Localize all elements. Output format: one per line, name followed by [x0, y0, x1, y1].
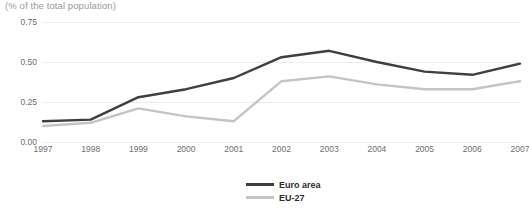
x-tick-label: 2001 [224, 144, 243, 154]
x-tick-label: 2007 [511, 144, 529, 154]
legend-swatch-icon [246, 183, 274, 186]
x-tick-label: 1998 [81, 144, 100, 154]
series-line-euro-area [43, 51, 520, 121]
y-tick-label: 0.75 [20, 17, 37, 27]
x-tick-label: 2002 [272, 144, 291, 154]
legend-swatch-icon [246, 196, 274, 199]
x-axis: 1997199819992000200120022003200420052006… [43, 144, 520, 160]
y-tick-label: 0.50 [20, 57, 37, 67]
x-tick-label: 2005 [415, 144, 434, 154]
legend-label: Euro area [279, 180, 321, 190]
legend-item-eu-27[interactable]: EU-27 [246, 191, 305, 204]
x-tick-label: 2003 [320, 144, 339, 154]
plot-area: 0.000.250.500.75 [43, 22, 520, 142]
series-lines [43, 22, 520, 142]
chart-subtitle: (% of the total population) [5, 0, 116, 11]
legend-item-euro-area[interactable]: Euro area [246, 178, 321, 191]
legend-label: EU-27 [279, 193, 305, 203]
x-tick-label: 2004 [367, 144, 386, 154]
x-tick-label: 2000 [177, 144, 196, 154]
x-tick-label: 1999 [129, 144, 148, 154]
chart-legend: Euro areaEU-27 [0, 178, 525, 204]
y-tick-label: 0.25 [20, 97, 37, 107]
x-tick-label: 1997 [34, 144, 53, 154]
gridline [43, 142, 520, 143]
x-tick-label: 2006 [463, 144, 482, 154]
series-line-eu-27 [43, 76, 520, 126]
